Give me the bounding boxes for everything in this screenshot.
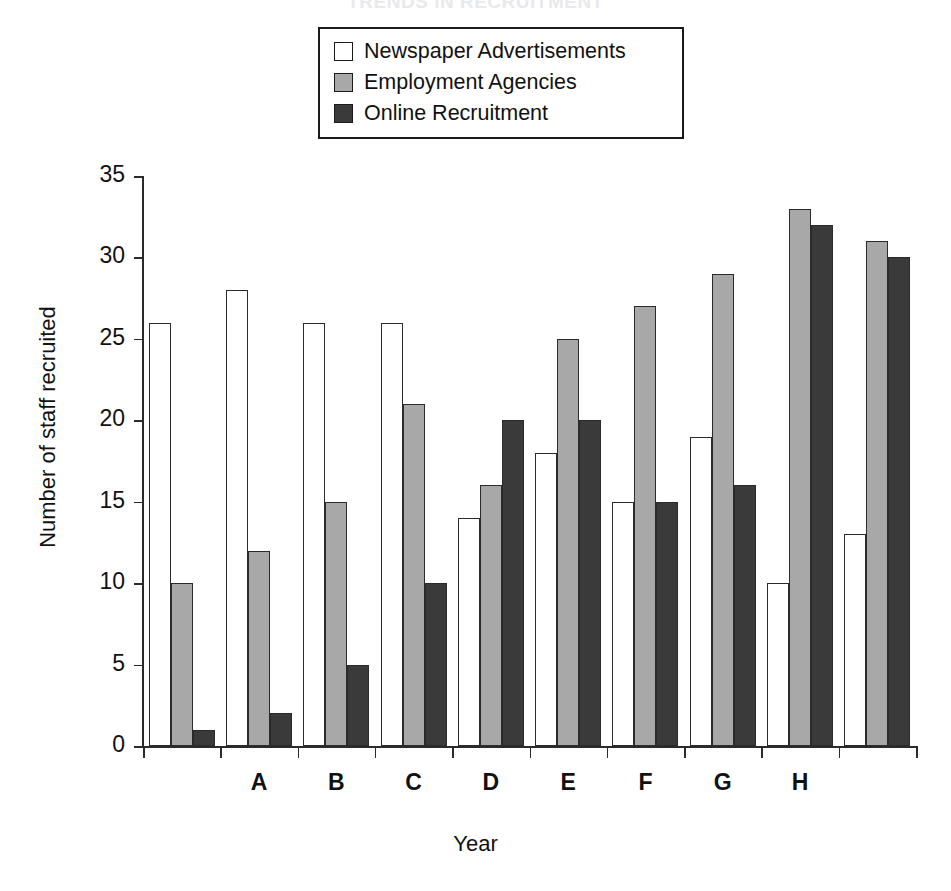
legend-label-newspaper-advertisements: Newspaper Advertisements (364, 41, 626, 63)
x-axis-tick-label: H (792, 771, 809, 794)
bar (866, 241, 888, 746)
x-axis-tick-label: E (560, 771, 575, 794)
bar (325, 502, 347, 746)
y-axis-tick-label: 0 (112, 733, 125, 756)
x-axis-tick-label: A (251, 771, 268, 794)
bar (226, 290, 248, 746)
bar (193, 730, 215, 746)
bar (171, 583, 193, 746)
bar (634, 306, 656, 746)
bar (656, 502, 678, 746)
x-axis-title: Year (0, 833, 951, 855)
bar (480, 485, 502, 746)
chart-title: TRENDS IN RECRUITMENT (0, 0, 951, 9)
y-axis-title: Number of staff recruited (37, 267, 59, 587)
y-axis-tick: 30 (134, 257, 143, 259)
x-axis-tick (761, 746, 763, 758)
y-axis-tick-label: 35 (99, 163, 125, 186)
x-axis-tick (220, 746, 222, 758)
x-axis-tick-label: F (638, 771, 652, 794)
bar (248, 551, 270, 746)
bar (535, 453, 557, 746)
x-axis-tick-label: D (483, 771, 500, 794)
bar (303, 323, 325, 746)
bar (888, 257, 910, 746)
y-axis-tick-label: 15 (99, 489, 125, 512)
x-axis-tick-label: G (714, 771, 732, 794)
bar (811, 225, 833, 746)
legend-swatch-newspaper-advertisements (334, 42, 353, 61)
legend-label-employment-agencies: Employment Agencies (364, 72, 577, 94)
y-axis-tick: 20 (134, 420, 143, 422)
bar (403, 404, 425, 746)
chart-legend: Newspaper Advertisements Employment Agen… (318, 27, 684, 139)
y-axis-tick-label: 5 (112, 652, 125, 675)
plot-area: 05101520253035 ABCDEFGH (143, 176, 916, 746)
x-axis-tick (143, 746, 145, 758)
y-axis-tick: 10 (134, 583, 143, 585)
bar (579, 420, 601, 746)
y-axis-tick: 15 (134, 502, 143, 504)
x-axis-tick (530, 746, 532, 758)
legend-item-newspaper-advertisements: Newspaper Advertisements (334, 36, 672, 67)
x-axis-tick (916, 746, 918, 758)
y-axis-line (142, 176, 144, 747)
y-axis-tick: 5 (134, 665, 143, 667)
bar (612, 502, 634, 746)
y-axis-tick: 25 (134, 339, 143, 341)
legend-item-online-recruitment: Online Recruitment (334, 98, 672, 129)
bar (381, 323, 403, 746)
y-axis-tick: 0 (134, 746, 143, 748)
legend-swatch-online-recruitment (334, 104, 353, 123)
legend-label-online-recruitment: Online Recruitment (364, 103, 548, 125)
bar (844, 534, 866, 746)
bar (149, 323, 171, 746)
bar (347, 665, 369, 746)
x-axis-tick (684, 746, 686, 758)
x-axis-tick (607, 746, 609, 758)
bar (270, 713, 292, 746)
x-axis-tick (839, 746, 841, 758)
x-axis-tick (298, 746, 300, 758)
bar (734, 485, 756, 746)
x-axis-tick (452, 746, 454, 758)
y-axis-tick-label: 10 (99, 570, 125, 593)
legend-item-employment-agencies: Employment Agencies (334, 67, 672, 98)
bar (767, 583, 789, 746)
bar (557, 339, 579, 746)
x-axis-tick-label: C (405, 771, 422, 794)
y-axis-tick-label: 20 (99, 407, 125, 430)
bar (712, 274, 734, 746)
y-axis-tick-label: 25 (99, 326, 125, 349)
bar (425, 583, 447, 746)
y-axis-tick: 35 (134, 176, 143, 178)
y-axis-tick-label: 30 (99, 244, 125, 267)
bar (690, 437, 712, 746)
legend-swatch-employment-agencies (334, 73, 353, 92)
y-axis-title-wrap: Number of staff recruited (48, 430, 49, 431)
bar (458, 518, 480, 746)
bar (789, 209, 811, 746)
bar (502, 420, 524, 746)
x-axis-tick (375, 746, 377, 758)
x-axis-tick-label: B (328, 771, 345, 794)
